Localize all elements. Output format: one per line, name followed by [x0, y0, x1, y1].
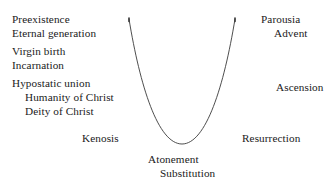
- label-substitution: Substitution: [160, 166, 215, 180]
- label-eternal-generation: Eternal generation: [12, 26, 96, 40]
- label-virgin-birth: Virgin birth: [12, 44, 65, 58]
- label-hypostatic-union: Hypostatic union: [12, 76, 90, 90]
- curve-path: [129, 19, 235, 144]
- label-parousia: Parousia: [261, 12, 300, 26]
- label-advent: Advent: [274, 26, 308, 40]
- label-preexistence: Preexistence: [12, 12, 70, 26]
- label-humanity-of-christ: Humanity of Christ: [25, 90, 114, 104]
- christology-diagram: Preexistence Eternal generation Virgin b…: [0, 0, 336, 189]
- label-kenosis: Kenosis: [82, 131, 119, 145]
- label-incarnation: Incarnation: [12, 58, 64, 72]
- label-deity-of-christ: Deity of Christ: [25, 104, 94, 118]
- label-atonement: Atonement: [148, 152, 199, 166]
- label-ascension: Ascension: [276, 80, 324, 94]
- label-resurrection: Resurrection: [242, 131, 300, 145]
